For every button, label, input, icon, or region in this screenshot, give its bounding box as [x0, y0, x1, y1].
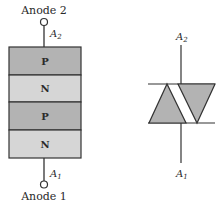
anode-2-terminal-icon [41, 19, 48, 26]
symbol-a2-label: A2 [175, 31, 188, 44]
layer-label: N [40, 139, 49, 150]
triac-symbol: A2 A1 [148, 31, 215, 181]
triac-diagram: Anode 2 A2 P N P N A1 Anode 1 A2 A1 [0, 0, 223, 212]
a2-lead-label: A2 [49, 28, 62, 41]
layer-structure: Anode 2 A2 P N P N A1 Anode 1 [9, 4, 81, 203]
layer-label: P [41, 111, 49, 122]
layer-label: P [41, 56, 49, 67]
anode-1-terminal-icon [41, 181, 48, 188]
anode-1-label: Anode 1 [20, 190, 67, 203]
a1-lead-label: A1 [49, 168, 62, 181]
symbol-a1-label: A1 [175, 168, 188, 181]
layer-label: N [40, 83, 49, 94]
anode-2-label: Anode 2 [20, 4, 67, 17]
